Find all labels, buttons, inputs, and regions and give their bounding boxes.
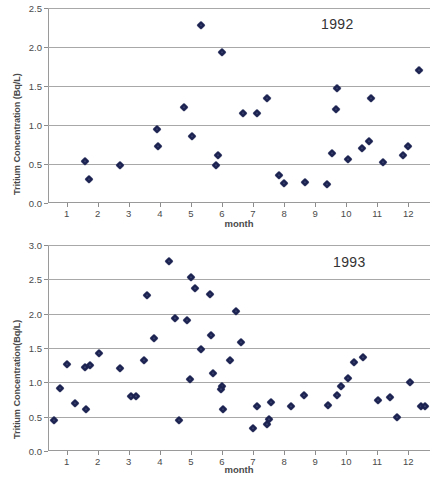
- figure-page: Tritium Concentration (Bq/L) 1992 0.00.5…: [0, 0, 432, 477]
- data-point: [374, 396, 382, 404]
- data-point: [63, 360, 71, 368]
- x-tick-mark: [222, 451, 223, 455]
- data-point: [140, 356, 148, 364]
- data-point: [171, 315, 179, 323]
- data-point: [365, 137, 373, 145]
- data-point: [338, 382, 346, 390]
- x-axis-line-1993: [48, 450, 430, 451]
- data-point: [132, 392, 140, 400]
- data-point: [206, 290, 214, 298]
- plot-area-1993: 0.00.51.01.52.02.53.0123456789101112: [48, 245, 430, 451]
- data-point: [399, 151, 407, 159]
- data-point: [218, 48, 226, 56]
- x-tick-mark: [253, 203, 254, 207]
- x-tick-mark: [129, 203, 130, 207]
- x-tick-mark: [315, 203, 316, 207]
- data-point: [421, 402, 429, 410]
- x-tick-mark: [408, 203, 409, 207]
- y-tick-label: 1.5: [29, 343, 42, 354]
- data-point: [180, 103, 188, 111]
- data-point: [150, 334, 158, 342]
- y-tick-label: 2.0: [29, 308, 42, 319]
- x-tick-mark: [346, 203, 347, 207]
- y-tick-mark: [44, 86, 48, 87]
- y-tick-label: 2.0: [29, 42, 42, 53]
- data-point: [358, 144, 366, 152]
- data-point: [214, 151, 222, 159]
- data-point: [323, 180, 331, 188]
- data-point: [71, 399, 79, 407]
- gridline-y: [48, 125, 430, 126]
- x-tick-mark: [67, 451, 68, 455]
- data-point: [85, 175, 93, 183]
- data-point: [415, 66, 423, 74]
- data-point: [82, 405, 90, 413]
- x-tick-mark: [160, 451, 161, 455]
- gridline-y: [48, 417, 430, 418]
- data-point: [333, 391, 341, 399]
- data-point: [153, 125, 161, 133]
- data-point: [263, 94, 271, 102]
- y-tick-mark: [44, 8, 48, 9]
- x-tick-mark: [98, 451, 99, 455]
- data-point: [165, 258, 173, 266]
- data-point: [406, 378, 414, 386]
- data-point: [280, 179, 288, 187]
- x-tick-mark: [191, 451, 192, 455]
- data-point: [253, 109, 261, 117]
- x-tick-mark: [408, 451, 409, 455]
- y-axis-title-1993: Tritium Concentration(Bq/L): [12, 320, 22, 439]
- data-point: [220, 405, 228, 413]
- gridline-y: [48, 86, 430, 87]
- gridline-y: [48, 348, 430, 349]
- data-point: [344, 155, 352, 163]
- data-point: [386, 393, 394, 401]
- x-tick-mark: [377, 203, 378, 207]
- x-tick-mark: [67, 203, 68, 207]
- data-point: [267, 398, 275, 406]
- y-tick-mark: [44, 348, 48, 349]
- x-axis-line-1992: [48, 202, 430, 203]
- chart-1992: Tritium Concentration (Bq/L) 1992 0.00.5…: [0, 0, 432, 232]
- y-tick-label: 3.0: [29, 240, 42, 251]
- data-point: [287, 402, 295, 410]
- plot-area-1992: 0.00.51.01.52.02.5123456789101112: [48, 8, 430, 203]
- y-tick-label: 0.0: [29, 198, 42, 209]
- data-point: [379, 158, 387, 166]
- data-point: [143, 291, 151, 299]
- gridline-y: [48, 382, 430, 383]
- x-tick-mark: [284, 451, 285, 455]
- data-point: [332, 105, 340, 113]
- x-tick-mark: [191, 203, 192, 207]
- data-point: [212, 161, 220, 169]
- y-tick-label: 1.0: [29, 377, 42, 388]
- y-tick-mark: [44, 203, 48, 204]
- x-tick-mark: [284, 203, 285, 207]
- data-point: [324, 401, 332, 409]
- data-point: [300, 391, 308, 399]
- data-point: [359, 353, 367, 361]
- y-tick-label: 1.0: [29, 120, 42, 131]
- y-tick-label: 2.5: [29, 274, 42, 285]
- y-tick-mark: [44, 451, 48, 452]
- data-point: [116, 161, 124, 169]
- gridline-y: [48, 47, 430, 48]
- y-tick-mark: [44, 417, 48, 418]
- data-point: [207, 331, 215, 339]
- x-tick-mark: [377, 451, 378, 455]
- data-point: [344, 374, 352, 382]
- data-point: [350, 358, 358, 366]
- data-point: [301, 178, 309, 186]
- data-point: [237, 338, 245, 346]
- data-point: [116, 364, 124, 372]
- gridline-y: [48, 8, 430, 9]
- data-point: [328, 149, 336, 157]
- data-point: [393, 413, 401, 421]
- y-tick-mark: [44, 382, 48, 383]
- data-point: [56, 384, 64, 392]
- x-tick-mark: [98, 203, 99, 207]
- y-tick-mark: [44, 314, 48, 315]
- data-point: [253, 402, 261, 410]
- y-tick-label: 0.0: [29, 446, 42, 457]
- data-point: [209, 369, 217, 377]
